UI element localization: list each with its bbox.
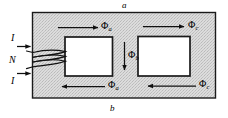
current-label-bottom: I	[11, 76, 14, 86]
flux-subscript: c	[207, 83, 210, 90]
flux-symbol: Φ	[108, 79, 115, 90]
flux-symbol: Φ	[101, 20, 108, 31]
flux-subscript: a	[109, 25, 112, 32]
core-window-right	[138, 37, 190, 77]
flux-symbol: Φ	[188, 19, 195, 30]
flux-label-phi-b-center: Φb	[128, 50, 139, 62]
flux-label-phi-c-bottom: Φc	[199, 79, 210, 91]
node-label-a: a	[122, 1, 127, 10]
figure-canvas: a b I I N Φa Φc Φb Φa Φc	[0, 0, 228, 118]
flux-subscript: b	[136, 54, 139, 61]
core-window-left	[65, 37, 113, 76]
flux-symbol: Φ	[199, 78, 206, 89]
flux-subscript: a	[116, 84, 119, 91]
current-label-top: I	[11, 33, 14, 43]
flux-label-phi-a-bottom: Φa	[108, 80, 119, 92]
flux-subscript: c	[196, 24, 199, 31]
node-label-b: b	[110, 104, 115, 113]
magnetic-circuit-diagram	[0, 0, 228, 118]
current-arrows	[17, 47, 31, 74]
coil-turns-label: N	[9, 55, 16, 65]
flux-label-phi-c-top: Φc	[188, 20, 199, 32]
flux-symbol: Φ	[128, 49, 135, 60]
flux-label-phi-a-top: Φa	[101, 21, 112, 33]
